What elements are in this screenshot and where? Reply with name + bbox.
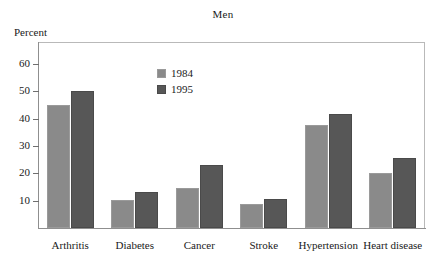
y-tick-label: 10 <box>0 195 30 206</box>
y-tick-label: 30 <box>0 140 30 151</box>
bar-chart: Men Percent 102030405060 ArthritisDiabet… <box>0 0 446 273</box>
bar[interactable] <box>329 114 352 228</box>
y-tick-label: 40 <box>0 113 30 124</box>
x-tick-label: Hypertension <box>299 239 358 251</box>
bar[interactable] <box>176 188 199 228</box>
legend-item-label: 1995 <box>171 84 193 95</box>
bar[interactable] <box>135 192 158 228</box>
x-tick-label: Diabetes <box>116 239 154 251</box>
bar[interactable] <box>47 105 70 228</box>
y-tick-mark <box>33 119 39 120</box>
legend-swatch-icon <box>157 69 166 78</box>
y-tick-label: 50 <box>0 85 30 96</box>
bar[interactable] <box>240 204 263 228</box>
y-tick-mark <box>33 146 39 147</box>
bar[interactable] <box>111 200 134 228</box>
bar[interactable] <box>369 173 392 228</box>
bar[interactable] <box>264 199 287 228</box>
x-tick-label: Arthritis <box>52 239 89 251</box>
x-tick-label: Cancer <box>184 239 215 251</box>
x-tick-label: Heart disease <box>363 239 422 251</box>
x-axis-line <box>38 228 426 229</box>
legend-item[interactable]: 1984 <box>157 66 193 80</box>
y-tick-mark <box>33 64 39 65</box>
y-tick-mark <box>33 201 39 202</box>
legend-item-label: 1984 <box>171 68 193 79</box>
y-tick-mark <box>33 173 39 174</box>
x-tick-label: Stroke <box>249 239 278 251</box>
y-tick-label: 60 <box>0 58 30 69</box>
bar[interactable] <box>305 125 328 228</box>
bar[interactable] <box>200 165 223 228</box>
bar[interactable] <box>71 91 94 228</box>
legend-item[interactable]: 1995 <box>157 82 193 96</box>
legend-swatch-icon <box>157 85 166 94</box>
y-axis-label: Percent <box>14 26 47 38</box>
y-tick-mark <box>33 91 39 92</box>
legend: 1984 1995 <box>157 66 193 98</box>
plot-area <box>38 42 425 229</box>
chart-title: Men <box>0 8 446 20</box>
y-tick-label: 20 <box>0 167 30 178</box>
bar[interactable] <box>393 158 416 228</box>
